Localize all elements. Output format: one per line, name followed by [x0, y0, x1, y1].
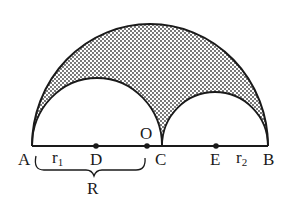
label-b: B — [263, 150, 274, 169]
label-e: E — [210, 150, 220, 169]
label-r1: r1 — [52, 148, 63, 168]
label-a: A — [18, 150, 31, 169]
label-o: O — [140, 124, 152, 143]
point-d — [93, 143, 99, 149]
arbelos-diagram: A r1 D O C E r2 B R — [0, 0, 291, 202]
label-r: R — [87, 179, 99, 198]
label-d: D — [90, 150, 102, 169]
point-o — [144, 143, 150, 149]
label-r2: r2 — [236, 148, 247, 168]
point-e — [213, 143, 219, 149]
label-c: C — [155, 150, 166, 169]
